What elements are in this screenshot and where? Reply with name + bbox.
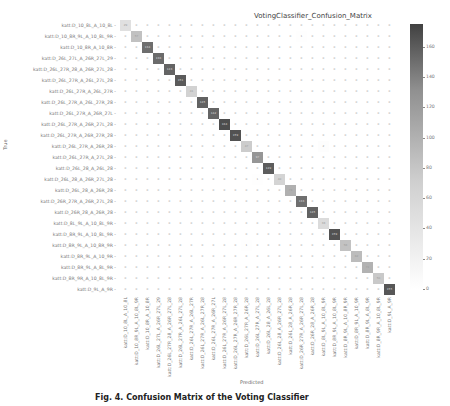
matrix-cell: 0 <box>252 284 263 295</box>
matrix-cell: 0 <box>175 251 186 262</box>
matrix-cell: 0 <box>274 119 285 130</box>
matrix-cell: 0 <box>208 229 219 240</box>
matrix-cell: 0 <box>340 31 351 42</box>
matrix-cell: 0 <box>351 196 362 207</box>
matrix-cell: 0 <box>120 141 131 152</box>
matrix-cell: 0 <box>263 119 274 130</box>
matrix-cell: 0 <box>263 251 274 262</box>
matrix-cell: 0 <box>340 174 351 185</box>
matrix-cell: 0 <box>120 262 131 273</box>
matrix-cell: 0 <box>351 64 362 75</box>
matrix-cell: 0 <box>230 119 241 130</box>
matrix-cell: 0 <box>296 141 307 152</box>
matrix-cell: 0 <box>373 141 384 152</box>
matrix-cell: 0 <box>296 119 307 130</box>
matrix-cell: 0 <box>208 240 219 251</box>
matrix-cell: 0 <box>131 262 142 273</box>
y-tick-label: katt:D_8R_9L_A_8L_9R - <box>61 265 116 270</box>
matrix-cell: 0 <box>120 174 131 185</box>
matrix-cell: 0 <box>318 31 329 42</box>
diagonal-cell: 62 <box>351 251 362 262</box>
diagonal-cell: 155 <box>384 284 395 295</box>
matrix-cell: 0 <box>384 64 395 75</box>
y-axis-label: True <box>2 139 8 150</box>
matrix-cell: 0 <box>285 75 296 86</box>
matrix-cell: 0 <box>164 218 175 229</box>
matrix-cell: 0 <box>230 108 241 119</box>
matrix-cell: 0 <box>219 273 230 284</box>
x-tick-label: katt:D_26R_28_A_26R_28 <box>310 297 315 406</box>
x-tick-label: katt:D_26L_27R_A_26R_27R_28 <box>233 297 238 406</box>
matrix-cell: 0 <box>131 20 142 31</box>
matrix-cell: 0 <box>120 42 131 53</box>
matrix-cell: 0 <box>131 64 142 75</box>
matrix-cell: 0 <box>307 284 318 295</box>
matrix-cell: 0 <box>241 218 252 229</box>
matrix-cell: 0 <box>142 251 153 262</box>
y-tick-label: katt:D_26L_27R_A_26R_27L - <box>49 111 116 116</box>
matrix-cell: 0 <box>164 42 175 53</box>
matrix-cell: 0 <box>142 108 153 119</box>
matrix-cell: 0 <box>263 240 274 251</box>
matrix-cell: 0 <box>307 251 318 262</box>
matrix-cell: 0 <box>241 196 252 207</box>
matrix-cell: 0 <box>208 141 219 152</box>
matrix-cell: 0 <box>197 86 208 97</box>
x-tick-label: katt:D_8R_9R_A_10_8L_9R <box>376 297 381 406</box>
matrix-cell: 0 <box>329 284 340 295</box>
matrix-cell: 0 <box>219 240 230 251</box>
matrix-cell: 0 <box>241 163 252 174</box>
matrix-cell: 0 <box>362 240 373 251</box>
matrix-cell: 0 <box>340 53 351 64</box>
matrix-cell: 0 <box>186 152 197 163</box>
matrix-cell: 0 <box>175 119 186 130</box>
x-tick-label: katt:D_10_8R_9L_A_10_8L_9R <box>134 297 139 406</box>
matrix-cell: 0 <box>186 119 197 130</box>
matrix-cell: 0 <box>285 251 296 262</box>
matrix-cell: 0 <box>362 196 373 207</box>
matrix-cell: 0 <box>230 31 241 42</box>
matrix-cell: 0 <box>219 86 230 97</box>
matrix-cell: 0 <box>186 185 197 196</box>
matrix-cell: 0 <box>230 86 241 97</box>
matrix-cell: 0 <box>197 64 208 75</box>
matrix-cell: 0 <box>274 64 285 75</box>
matrix-cell: 0 <box>208 262 219 273</box>
matrix-cell: 0 <box>208 273 219 284</box>
matrix-cell: 0 <box>197 20 208 31</box>
matrix-cell: 0 <box>351 42 362 53</box>
matrix-cell: 0 <box>142 163 153 174</box>
matrix-cell: 0 <box>318 163 329 174</box>
x-tick-label: katt:D_26L_27R_A_26R_27L_28 <box>222 297 227 406</box>
matrix-cell: 0 <box>318 130 329 141</box>
matrix-cell: 0 <box>120 108 131 119</box>
matrix-cell: 1 <box>241 240 252 251</box>
matrix-cell: 0 <box>219 218 230 229</box>
matrix-cell: 0 <box>384 31 395 42</box>
matrix-cell: 0 <box>252 20 263 31</box>
matrix-cell: 1 <box>296 31 307 42</box>
matrix-cell: 0 <box>362 108 373 119</box>
matrix-cell: 0 <box>373 196 384 207</box>
matrix-cell: 0 <box>340 207 351 218</box>
matrix-cell: 0 <box>153 240 164 251</box>
matrix-cell: 0 <box>252 185 263 196</box>
matrix-cell: 0 <box>131 174 142 185</box>
matrix-cell: 0 <box>131 218 142 229</box>
matrix-cell: 0 <box>296 284 307 295</box>
x-tick-label: katt:D_10_8R_A_10_8R <box>145 297 150 406</box>
matrix-cell: 0 <box>340 284 351 295</box>
matrix-cell: 0 <box>329 119 340 130</box>
matrix-cell: 0 <box>296 108 307 119</box>
matrix-cell: 0 <box>142 185 153 196</box>
matrix-cell: 0 <box>252 218 263 229</box>
matrix-cell: 0 <box>384 75 395 86</box>
matrix-cell: 0 <box>318 53 329 64</box>
matrix-cell: 0 <box>329 97 340 108</box>
matrix-cell: 0 <box>384 262 395 273</box>
matrix-cell: 0 <box>120 53 131 64</box>
matrix-cell: 0 <box>131 42 142 53</box>
x-tick-label: katt:D_8L_9L_A_10_8L_9R <box>321 297 326 406</box>
matrix-cell: 0 <box>362 75 373 86</box>
matrix-cell: 0 <box>263 20 274 31</box>
